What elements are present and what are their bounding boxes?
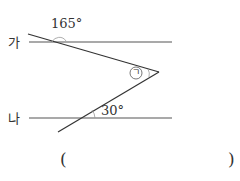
answer-close-paren: ) — [228, 151, 235, 168]
line-label-ga: 가 — [8, 36, 20, 49]
angle-arc-unknown — [148, 69, 149, 77]
angle-label-30: 30° — [101, 104, 124, 117]
line-label-na: 나 — [8, 112, 20, 125]
angle-label-165: 165° — [51, 17, 82, 30]
answer-open-paren: ( — [60, 151, 67, 168]
unknown-angle-label: ㄱ — [132, 68, 140, 77]
transversal-lower — [58, 72, 159, 132]
geometry-figure — [0, 0, 240, 181]
